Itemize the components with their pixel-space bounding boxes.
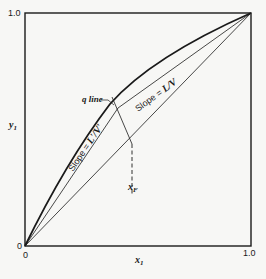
q-line bbox=[112, 97, 132, 144]
y-min-label: 0 bbox=[17, 241, 22, 251]
q-line-label: q line bbox=[82, 94, 103, 104]
y-max-label: 1.0 bbox=[8, 8, 21, 18]
x-min-label: 0 bbox=[23, 250, 28, 260]
x-axis-label: x1 bbox=[134, 254, 144, 267]
stripping-slope-label: Slope = L'/V' bbox=[66, 122, 106, 173]
y-axis-label: y1 bbox=[8, 119, 17, 132]
x-max-label: 1.0 bbox=[243, 248, 256, 258]
diagonal-line bbox=[25, 13, 251, 246]
rectifying-operating-line bbox=[118, 13, 251, 108]
mccabe-thiele-diagram: 1.0 0 0 1.0 y1 x1 q line Slope = L'/V' S… bbox=[0, 0, 266, 279]
feed-composition-label: xF bbox=[127, 181, 138, 194]
